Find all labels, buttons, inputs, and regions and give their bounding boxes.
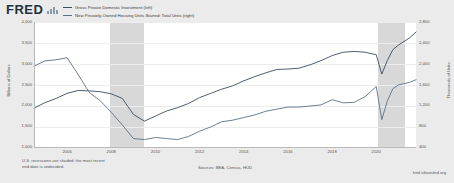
legend-label: Gross Private Domestic Investment (left) (75, 5, 152, 10)
left-axis-tick: 3,000 (22, 62, 32, 66)
legend-item-investment: Gross Private Domestic Investment (left) (63, 4, 194, 11)
x-axis-tick: 2010 (151, 150, 160, 154)
series-line (34, 32, 416, 121)
left-axis-tick: 4,000 (22, 20, 32, 24)
series-line (34, 58, 416, 140)
fred-chart-figure: FRED Gross Private Domestic Investment (… (0, 0, 454, 183)
sources-label: Sources: BEA, Census, HUD (198, 165, 252, 170)
x-axis-tick: 2008 (107, 150, 116, 154)
legend-label: New Privately-Owned Housing Units Starte… (75, 13, 194, 18)
legend-line-swatch-icon (63, 7, 72, 8)
right-axis-tick: 800 (419, 124, 426, 128)
x-axis-tick: 2006 (62, 150, 71, 154)
recession-note: U.S. recessions are shaded; the most rec… (22, 158, 105, 170)
x-axis-tick: 2020 (372, 150, 381, 154)
right-axis-tick: 2,400 (419, 41, 429, 45)
x-axis-tick: 2014 (239, 150, 248, 154)
right-axis-tick: 400 (419, 145, 426, 149)
left-axis-ticks: 4,000 3,500 3,000 2,500 2,000 1,500 1,00… (10, 22, 32, 148)
left-axis-title: Billions of Dollars (6, 51, 11, 111)
right-axis-title: Thousands of Units (446, 51, 451, 111)
gridline (34, 148, 416, 149)
series-lines (34, 22, 416, 148)
legend-item-housing-starts: New Privately-Owned Housing Units Starte… (63, 12, 194, 19)
left-axis-tick: 1,500 (22, 124, 32, 128)
recession-note-line2: end date is undecided. (22, 164, 105, 170)
legend-line-swatch-icon (63, 15, 72, 16)
right-axis-tick: 2,800 (419, 20, 429, 24)
chart-header: FRED Gross Private Domestic Investment (… (0, 0, 454, 20)
bar-graph-icon (47, 6, 58, 14)
chart-legend: Gross Private Domestic Investment (left)… (63, 4, 194, 20)
x-axis-tick: 2012 (195, 150, 204, 154)
right-axis-tick: 2,000 (419, 62, 429, 66)
fred-logo: FRED (6, 3, 43, 16)
plot-area (34, 22, 416, 148)
right-axis-tick: 1,200 (419, 103, 429, 107)
left-axis-tick: 1,000 (22, 145, 32, 149)
left-axis-tick: 2,000 (22, 103, 32, 107)
left-axis-tick: 3,500 (22, 41, 32, 45)
right-axis-tick: 1,600 (419, 83, 429, 87)
x-axis-tick: 2018 (327, 150, 336, 154)
x-axis-tick: 2016 (283, 150, 292, 154)
fred-url: fred.stlouisfed.org (413, 170, 446, 175)
left-axis-tick: 2,500 (22, 83, 32, 87)
right-axis-ticks: 2,800 2,400 2,000 1,600 1,200 800 400 (417, 22, 441, 148)
